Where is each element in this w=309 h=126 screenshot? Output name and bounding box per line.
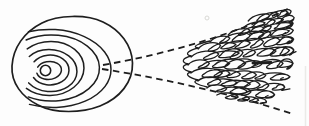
spherulite-magnification-figure <box>0 0 309 126</box>
folded-chain-scribble-row <box>191 47 296 60</box>
folded-chain-region <box>183 9 296 103</box>
folded-chain-scribble-row <box>188 59 293 69</box>
core-circle <box>40 65 50 75</box>
chain-fold-connector <box>195 80 207 87</box>
spherulite-group <box>12 16 133 111</box>
diagram-stage <box>0 0 309 126</box>
dense-chain-segment <box>253 63 271 64</box>
growth-ring-arc <box>26 35 99 101</box>
chain-fold-connector <box>187 72 198 80</box>
scan-smudge-mark <box>205 16 209 20</box>
chain-fold-connector <box>183 64 191 72</box>
folded-chain-scribble-row <box>191 68 290 80</box>
